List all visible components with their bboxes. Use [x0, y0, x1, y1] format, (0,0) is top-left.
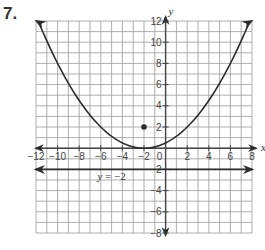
- y-tick-label: 6: [156, 79, 162, 90]
- x-tick-label: 0: [157, 151, 163, 162]
- x-tick-label: 6: [228, 151, 234, 162]
- x-tick-label: −12: [28, 151, 45, 162]
- x-tick-label: −2: [138, 151, 150, 162]
- x-tick-label: 8: [249, 151, 255, 162]
- graph: xy −12−10−8−6−4−202468−8−6−4−224681012 y…: [0, 0, 265, 250]
- x-tick-label: 4: [206, 151, 212, 162]
- y-tick-label: 12: [150, 16, 162, 27]
- x-tick-label: 2: [184, 151, 190, 162]
- y-tick-label: 8: [156, 58, 162, 69]
- x-tick-label: −10: [49, 151, 66, 162]
- focus-point: [141, 124, 147, 130]
- y-axis-label: y: [168, 5, 174, 17]
- y-tick-label: −8: [150, 228, 162, 239]
- x-tick-label: −4: [117, 151, 129, 162]
- y-tick-label: −4: [150, 185, 162, 196]
- y-tick-label: 2: [156, 122, 162, 133]
- directrix-label: y = −2: [96, 170, 125, 182]
- x-axis-label: x: [260, 141, 265, 153]
- y-tick-label: −6: [150, 206, 162, 217]
- y-tick-label: 4: [156, 100, 162, 111]
- y-tick-label: 10: [150, 37, 162, 48]
- x-tick-label: −8: [73, 151, 85, 162]
- annotations: y = −2: [96, 170, 125, 182]
- x-tick-label: −6: [95, 151, 107, 162]
